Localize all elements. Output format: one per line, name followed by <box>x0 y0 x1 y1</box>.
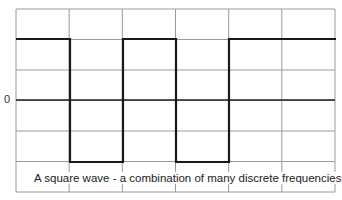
square-wave-diagram <box>0 0 342 200</box>
diagram-caption: A square wave - a combination of many di… <box>33 172 342 184</box>
zero-axis-label: 0 <box>4 93 10 105</box>
